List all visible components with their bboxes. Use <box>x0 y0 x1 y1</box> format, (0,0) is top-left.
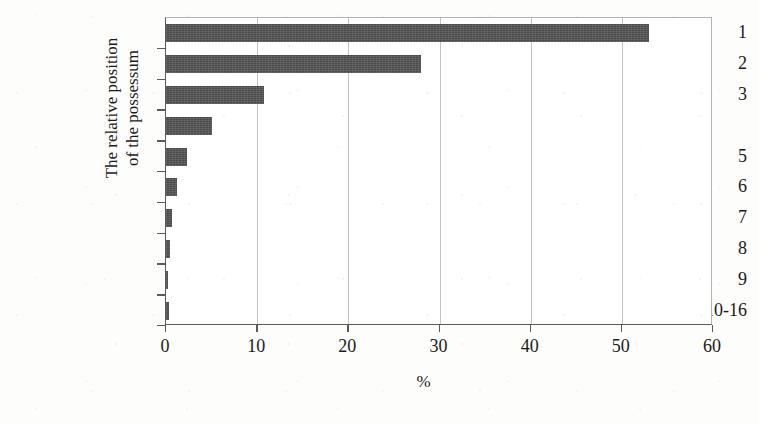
bar-row <box>166 80 711 111</box>
y-axis-tick <box>157 171 165 172</box>
x-axis-tick <box>712 325 713 332</box>
plot-area <box>165 17 712 325</box>
y-axis-tick <box>157 140 165 141</box>
bar-chart-figure: The relative position of the possessum 1… <box>0 0 759 424</box>
y-axis-tick <box>157 202 165 203</box>
bar-row <box>166 203 711 234</box>
y-axis-tick <box>157 233 165 234</box>
bar <box>166 240 170 258</box>
bar-row <box>166 49 711 80</box>
x-axis-tick <box>530 325 531 332</box>
x-axis-tick-label: 20 <box>317 336 377 357</box>
x-axis-tick <box>439 325 440 332</box>
y-axis-title-line-1: The relative position <box>102 38 123 179</box>
y-axis-tick <box>157 79 165 80</box>
bar-row <box>166 172 711 203</box>
bar <box>166 117 212 135</box>
bar-row <box>166 295 711 326</box>
x-axis-tick-label: 10 <box>226 336 286 357</box>
bar <box>166 86 264 104</box>
y-axis-tick <box>157 325 165 326</box>
bar-row <box>166 264 711 295</box>
bar-row <box>166 141 711 172</box>
x-axis-tick <box>347 325 348 332</box>
x-axis-tick-label: 30 <box>409 336 469 357</box>
x-axis-tick <box>165 325 166 332</box>
x-axis-tick-label: 50 <box>591 336 651 357</box>
bar-row <box>166 110 711 141</box>
bar <box>166 302 169 320</box>
y-axis-tick <box>157 294 165 295</box>
bar <box>166 55 421 73</box>
x-axis-tick-label: 60 <box>682 336 742 357</box>
y-axis-tick <box>157 263 165 264</box>
bar <box>166 271 168 289</box>
x-axis-tick <box>256 325 257 332</box>
x-axis-tick-label: 0 <box>135 336 195 357</box>
bar-row <box>166 18 711 49</box>
y-axis-tick <box>157 48 165 49</box>
bar <box>166 209 172 227</box>
bar-row <box>166 234 711 265</box>
x-axis-tick <box>621 325 622 332</box>
y-axis-title-line-2: of the possessum <box>123 50 144 166</box>
y-axis-tick <box>157 109 165 110</box>
bar <box>166 178 177 196</box>
x-axis-tick-label: 40 <box>500 336 560 357</box>
x-axis-title: % <box>0 372 759 392</box>
bar <box>166 24 649 42</box>
bar <box>166 148 187 166</box>
y-axis-title: The relative position of the possessum <box>93 0 153 223</box>
